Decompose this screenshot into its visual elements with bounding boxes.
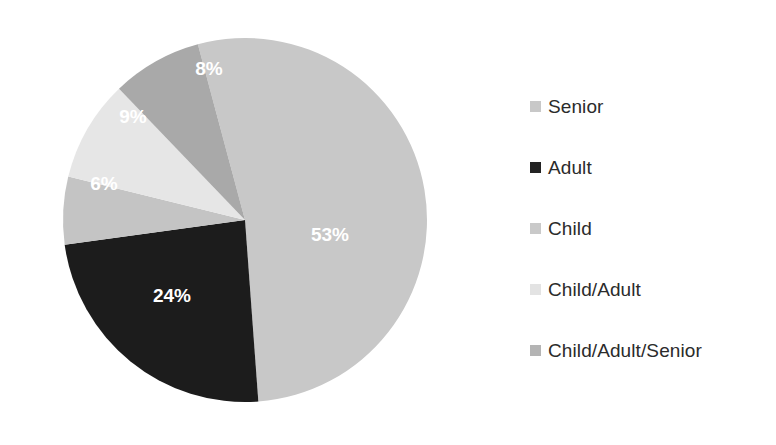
- pie-plot-area: 53%24%6%9%8%: [0, 0, 500, 445]
- legend-item[interactable]: Child/Adult/Senior: [530, 320, 774, 381]
- pie-slice-label: 24%: [153, 285, 191, 306]
- pie-slice-label: 53%: [311, 224, 349, 245]
- pie-slice-group: [63, 38, 427, 402]
- pie-svg: 53%24%6%9%8%: [0, 0, 500, 445]
- pie-slice[interactable]: [65, 220, 259, 402]
- legend-item-label: Adult: [548, 158, 592, 177]
- legend-swatch-icon: [530, 101, 541, 112]
- legend-item[interactable]: Adult: [530, 137, 774, 198]
- pie-slice-label: 8%: [195, 58, 223, 79]
- chart-legend: SeniorAdultChildChild/AdultChild/Adult/S…: [530, 76, 774, 381]
- legend-item[interactable]: Child: [530, 198, 774, 259]
- pie-chart-figure: 53%24%6%9%8% SeniorAdultChildChild/Adult…: [0, 0, 776, 445]
- legend-swatch-icon: [530, 223, 541, 234]
- pie-slice-label: 9%: [119, 106, 147, 127]
- legend-item-label: Senior: [548, 97, 604, 116]
- legend-item-label: Child/Adult: [548, 280, 641, 299]
- legend-item-label: Child: [548, 219, 592, 238]
- legend-swatch-icon: [530, 345, 541, 356]
- legend-item[interactable]: Senior: [530, 76, 774, 137]
- legend-item[interactable]: Child/Adult: [530, 259, 774, 320]
- legend-swatch-icon: [530, 162, 541, 173]
- legend-item-label: Child/Adult/Senior: [548, 341, 702, 360]
- pie-slice-label: 6%: [90, 173, 118, 194]
- legend-swatch-icon: [530, 284, 541, 295]
